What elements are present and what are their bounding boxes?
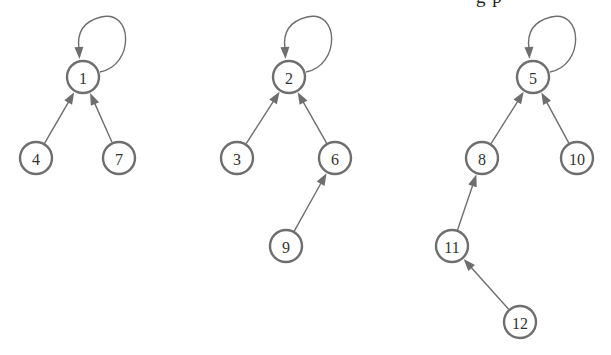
arrowhead-icon [64,92,74,105]
clipped-caption-text: g p [476,0,503,8]
forest-graph: 147236958101112 [0,0,611,355]
arrowhead-icon [90,93,99,106]
edge-line [303,101,327,143]
edge-line [546,101,569,143]
node-label: 5 [529,70,537,87]
arrowhead-icon [269,92,279,105]
edge-8-to-5 [491,92,524,144]
node-9: 9 [270,230,302,262]
node-8: 8 [466,142,498,174]
node-11: 11 [436,230,468,262]
disjoint-set-forest-diagram: g p 147236958101112 [0,0,611,355]
node-label: 9 [282,239,290,256]
node-7: 7 [103,142,135,174]
node-5: 5 [517,61,549,93]
node-label: 3 [233,151,241,168]
node-label: 8 [478,151,486,168]
node-12: 12 [504,306,536,338]
edge-line [470,266,508,309]
edge-line [491,100,518,143]
node-3: 3 [221,142,253,174]
arrowhead-icon [74,47,83,59]
node-label: 2 [285,70,293,87]
arrowhead-icon [317,173,327,186]
node-label: 10 [569,151,585,168]
edge-line [457,184,473,230]
node-1: 1 [67,61,99,93]
edge-9-to-6 [294,173,326,231]
node-label: 11 [444,239,459,256]
arrowhead-icon [524,47,533,59]
edge-6-to-2 [298,92,327,143]
node-label: 7 [115,151,123,168]
edge-10-to-5 [541,92,569,143]
node-label: 1 [79,70,87,87]
edge-line [94,102,112,142]
edge-line [45,101,70,144]
node-label: 4 [32,151,40,168]
node-10: 10 [561,142,593,174]
arrowhead-icon [513,92,523,105]
node-4: 4 [20,142,52,174]
nodes-layer: 147236958101112 [20,61,593,338]
arrowhead-icon [298,92,308,105]
edge-4-to-1 [45,92,75,143]
arrowhead-icon [468,175,477,188]
edge-7-to-1 [90,93,112,142]
edge-11-to-8 [457,175,476,230]
edge-line [246,100,274,144]
node-2: 2 [273,61,305,93]
node-label: 6 [331,151,339,168]
arrowhead-icon [541,92,551,105]
node-6: 6 [319,142,351,174]
arrowhead-icon [280,47,289,59]
edge-line [294,182,321,231]
edge-12-to-11 [464,259,509,309]
edge-3-to-2 [246,92,279,144]
node-label: 12 [512,315,528,332]
